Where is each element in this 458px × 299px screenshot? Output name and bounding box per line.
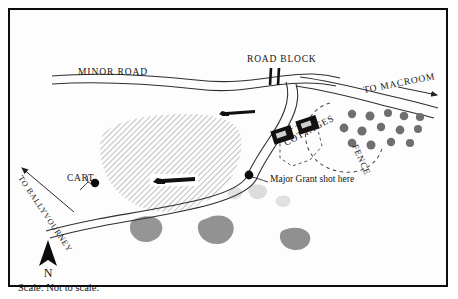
hatched-field-area — [100, 114, 242, 212]
map-root: MINOR ROAD ROAD BLOCK TO MACROOM TO BALL… — [0, 0, 458, 299]
compass-letter: N — [44, 266, 53, 280]
label-to-macroom: TO MACROOM — [362, 71, 436, 95]
label-major-grant: Major Grant shot here — [270, 174, 354, 184]
label-road-block: ROAD BLOCK — [247, 54, 317, 64]
label-cart: CART — [67, 173, 94, 183]
rifle-symbol-west — [150, 174, 198, 186]
north-arrow-icon — [39, 240, 57, 266]
macroom-arrow — [398, 87, 437, 95]
scale-note: Scale: Not to scale. — [18, 282, 99, 293]
label-minor-road: MINOR ROAD — [78, 67, 148, 77]
label-to-ballyvourney: TO BALLYVOURNEY — [16, 174, 74, 253]
scrub-blobs-light — [228, 185, 291, 207]
rifle-symbol-north — [216, 107, 258, 118]
scrub-blobs-dark — [130, 216, 310, 251]
map-canvas: MINOR ROAD ROAD BLOCK TO MACROOM TO BALL… — [0, 0, 458, 299]
tree-cluster — [340, 109, 425, 150]
